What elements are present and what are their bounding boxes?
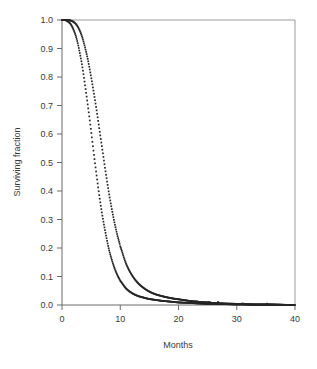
data-point (90, 75, 92, 77)
data-point (105, 232, 107, 234)
data-point (99, 135, 101, 137)
x-tick-label: 40 (290, 314, 300, 324)
data-point (104, 227, 106, 229)
data-point (74, 32, 76, 34)
data-point (84, 84, 86, 86)
data-point (113, 264, 115, 266)
data-point (102, 215, 104, 217)
data-point (86, 53, 88, 55)
data-point (93, 93, 95, 95)
y-tick-label: 0.4 (40, 186, 53, 196)
data-point (111, 259, 113, 261)
tail-marker (266, 303, 268, 305)
data-point (95, 171, 97, 173)
data-point (116, 233, 118, 235)
data-point (101, 145, 103, 147)
data-point (83, 77, 85, 79)
data-point (105, 174, 107, 176)
data-point (107, 245, 109, 247)
data-point (76, 40, 78, 42)
data-point (88, 112, 90, 114)
data-point (83, 73, 85, 75)
data-point (96, 175, 98, 177)
data-point (82, 37, 84, 39)
data-point (107, 243, 109, 245)
data-point (93, 154, 95, 156)
x-axis-title: Months (163, 340, 193, 350)
data-point (109, 197, 111, 199)
data-point (79, 52, 81, 54)
data-point (104, 163, 106, 165)
data-point (85, 88, 87, 90)
x-tick-label: 20 (173, 314, 183, 324)
data-point (104, 229, 106, 231)
data-point (86, 96, 88, 98)
data-point (115, 229, 117, 231)
data-point (84, 81, 86, 83)
data-point (97, 183, 99, 185)
data-point (102, 218, 104, 220)
data-point (108, 194, 110, 196)
data-point (82, 70, 84, 72)
data-point (119, 243, 121, 245)
x-tick-label: 10 (115, 314, 125, 324)
data-point (105, 170, 107, 172)
data-point (92, 87, 94, 89)
data-point (88, 116, 90, 118)
data-point (108, 247, 110, 249)
data-point (122, 255, 124, 257)
data-point (106, 181, 108, 183)
data-point (96, 179, 98, 181)
data-point (91, 80, 93, 82)
data-point (87, 104, 89, 106)
data-point (103, 156, 105, 158)
data-point (91, 137, 93, 139)
data-point (95, 167, 97, 169)
data-point (78, 50, 80, 52)
data-point (118, 239, 120, 241)
data-point (107, 184, 109, 186)
data-point (123, 256, 125, 258)
data-point (100, 142, 102, 144)
data-point (109, 200, 111, 202)
data-point (97, 116, 99, 118)
data-point (99, 198, 101, 200)
y-tick-label: 0.6 (40, 129, 53, 139)
data-point (93, 150, 95, 152)
x-tick-label: 30 (232, 314, 242, 324)
data-point (117, 235, 119, 237)
data-point (106, 240, 108, 242)
tail-marker (217, 301, 219, 303)
data-point (113, 219, 115, 221)
data-point (109, 252, 111, 254)
data-point (86, 100, 88, 102)
data-point (94, 99, 96, 101)
data-point (74, 33, 76, 35)
data-point (88, 66, 90, 68)
y-tick-label: 0.2 (40, 243, 53, 253)
y-tick-label: 0.5 (40, 158, 53, 168)
data-point (116, 231, 118, 233)
data-point (114, 224, 116, 226)
data-point (112, 262, 114, 264)
data-point (117, 237, 119, 239)
data-point (80, 55, 82, 57)
data-point (87, 60, 89, 62)
survival-plot-svg: 0.00.10.20.30.40.50.60.70.80.91.0 010203… (0, 0, 317, 369)
data-point (80, 58, 82, 60)
data-point (98, 194, 100, 196)
data-point (93, 90, 95, 92)
data-point (85, 49, 87, 51)
y-axis-title: Surviving fraction (12, 127, 22, 196)
tail-marker (242, 303, 244, 305)
data-point (89, 124, 91, 126)
survival-curve-figure: 0.00.10.20.30.40.50.60.70.80.91.0 010203… (0, 0, 317, 369)
data-point (100, 205, 102, 207)
data-point (95, 106, 97, 108)
x-tick-label: 0 (59, 314, 64, 324)
data-point (89, 72, 91, 74)
data-point (87, 108, 89, 110)
tail-marker (196, 301, 198, 303)
data-point (97, 120, 99, 122)
data-point (75, 35, 77, 37)
